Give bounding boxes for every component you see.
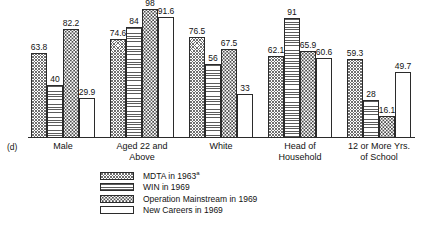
legend-label: WIN in 1969: [143, 182, 190, 192]
category-label-line: of School: [347, 152, 411, 163]
bar-value-label: 33: [240, 84, 249, 93]
bar-slot: 33: [237, 6, 253, 137]
bar-group: 76.55667.533: [189, 6, 253, 137]
bar: 33: [237, 94, 253, 137]
bar-slot: 76.5: [189, 6, 205, 137]
bar-group: 62.19165.960.6: [268, 6, 332, 137]
bar-slot: 65.9: [300, 6, 316, 137]
bar: 59.3: [347, 59, 363, 137]
bar-value-label: 82.2: [63, 19, 80, 28]
bar: 82.2: [63, 29, 79, 137]
category-label-0: Male: [31, 141, 95, 163]
bar-chart-figure: 63.84082.229.974.6849891.676.55667.53362…: [0, 0, 426, 234]
bar-value-label: 65.9: [300, 41, 317, 50]
legend: MDTA in 1963aWIN in 1969Operation Mainst…: [100, 170, 257, 216]
bar: 60.6: [316, 58, 332, 137]
bar-value-label: 84: [129, 17, 138, 26]
bar-slot: 67.5: [221, 6, 237, 137]
bar-groups: 63.84082.229.974.6849891.676.55667.53362…: [31, 6, 411, 137]
bar: 56: [205, 64, 221, 137]
bar-slot: 40: [47, 6, 63, 137]
bar-slot: 49.7: [395, 6, 411, 137]
bar-slot: 60.6: [316, 6, 332, 137]
legend-label: MDTA in 1963a: [143, 171, 200, 181]
bar-value-label: 16.1: [379, 106, 396, 115]
category-label-line: Head of: [268, 141, 332, 152]
x-axis-line: [28, 137, 415, 138]
legend-item-0: MDTA in 1963a: [100, 170, 257, 182]
panel-label: (d): [7, 142, 17, 152]
bar: 65.9: [300, 51, 316, 137]
bar: 98: [142, 9, 158, 137]
legend-swatch-dots: [100, 195, 134, 203]
bar-slot: 16.1: [379, 6, 395, 137]
bar-value-label: 49.7: [395, 62, 412, 71]
category-label-2: White: [189, 141, 253, 163]
bar-slot: 91: [284, 6, 300, 137]
bar-slot: 28: [363, 6, 379, 137]
bar: 67.5: [221, 49, 237, 137]
bar-group: 74.6849891.6: [110, 6, 174, 137]
bar-value-label: 67.5: [221, 39, 238, 48]
bar-value-label: 98: [145, 0, 154, 8]
bar: 91.6: [158, 17, 174, 137]
bar-value-label: 74.6: [110, 29, 127, 38]
plot-area: 63.84082.229.974.6849891.676.55667.53362…: [0, 0, 426, 140]
legend-item-3: New Careers in 1969: [100, 205, 257, 217]
bar-value-label: 40: [50, 75, 59, 84]
bar-value-label: 28: [366, 90, 375, 99]
legend-item-1: WIN in 1969: [100, 182, 257, 194]
bar-slot: 84: [126, 6, 142, 137]
bar: 40: [47, 85, 63, 137]
bar-slot: 62.1: [268, 6, 284, 137]
category-label-3: Head ofHousehold: [268, 141, 332, 163]
bar: 63.8: [31, 53, 47, 137]
bar-group: 63.84082.229.9: [31, 6, 95, 137]
bar-value-label: 76.5: [189, 27, 206, 36]
bar-slot: 74.6: [110, 6, 126, 137]
legend-label: Operation Mainstream in 1969: [143, 194, 257, 204]
legend-label-superscript: a: [196, 170, 199, 176]
legend-swatch-blank: [100, 206, 134, 214]
bar: 84: [126, 27, 142, 137]
category-label-line: Above: [110, 152, 174, 163]
bar: 29.9: [79, 98, 95, 137]
bar-slot: 56: [205, 6, 221, 137]
bar-value-label: 60.6: [316, 48, 333, 57]
bar: 76.5: [189, 37, 205, 137]
bar: 16.1: [379, 116, 395, 137]
bar: 49.7: [395, 72, 411, 137]
bar-value-label: 91: [287, 8, 296, 17]
bar-slot: 59.3: [347, 6, 363, 137]
bar-slot: 63.8: [31, 6, 47, 137]
bar-value-label: 62.1: [268, 46, 285, 55]
bar-slot: 29.9: [79, 6, 95, 137]
category-label-line: 12 or More Yrs.: [347, 141, 411, 152]
bar-value-label: 29.9: [79, 88, 96, 97]
legend-label: New Careers in 1969: [143, 205, 223, 215]
category-label-4: 12 or More Yrs.of School: [347, 141, 411, 163]
legend-item-2: Operation Mainstream in 1969: [100, 193, 257, 205]
category-label-1: Aged 22 andAbove: [110, 141, 174, 163]
bar-slot: 98: [142, 6, 158, 137]
bar: 74.6: [110, 39, 126, 137]
bar-value-label: 56: [208, 54, 217, 63]
category-label-line: Male: [31, 141, 95, 152]
bar-slot: 91.6: [158, 6, 174, 137]
bar-group: 59.32816.149.7: [347, 6, 411, 137]
bar: 28: [363, 100, 379, 137]
category-label-line: Household: [268, 152, 332, 163]
bar-value-label: 63.8: [31, 43, 48, 52]
category-label-line: Aged 22 and: [110, 141, 174, 152]
bar: 91: [284, 18, 300, 137]
bar-value-label: 59.3: [347, 49, 364, 58]
legend-swatch-hlines: [100, 183, 134, 191]
category-label-line: White: [189, 141, 253, 152]
bar-slot: 82.2: [63, 6, 79, 137]
bar: 62.1: [268, 56, 284, 137]
bar-value-label: 91.6: [158, 7, 175, 16]
legend-swatch-crosshatch: [100, 172, 134, 180]
category-axis-labels: MaleAged 22 andAboveWhiteHead ofHousehol…: [31, 141, 411, 163]
